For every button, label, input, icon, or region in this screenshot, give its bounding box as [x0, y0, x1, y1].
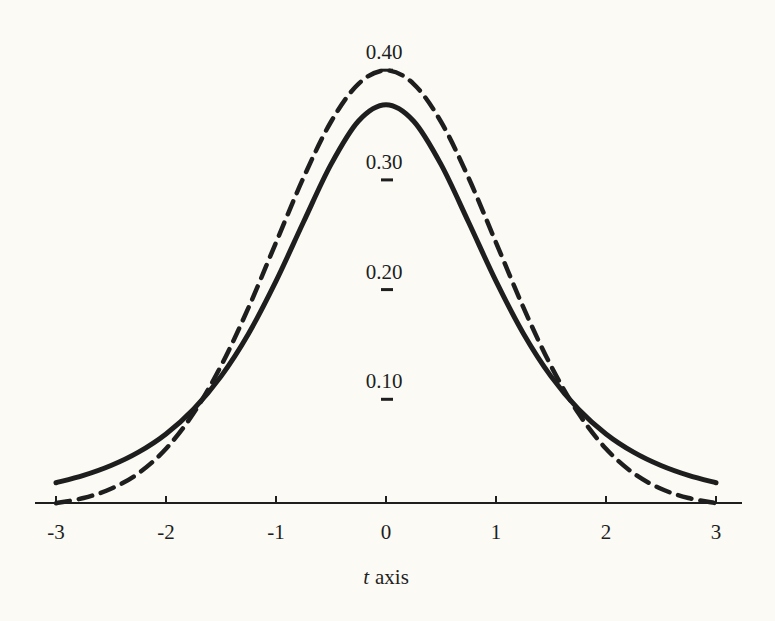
x-tick-label: 2: [601, 520, 612, 545]
x-axis-variable: t: [363, 565, 369, 589]
y-tick-label: 0.10: [366, 369, 403, 394]
y-tick-label: 0.20: [366, 260, 403, 285]
x-tick-label: 3: [711, 520, 722, 545]
x-tick-label: -3: [47, 520, 65, 545]
x-axis-label: taxis: [363, 565, 409, 590]
y-axis-ticks: [381, 70, 393, 399]
dashed-curve: [56, 70, 716, 503]
x-tick-label: -2: [157, 520, 175, 545]
x-axis-label-text: axis: [375, 565, 409, 589]
x-tick-label: 1: [491, 520, 502, 545]
y-tick-label: 0.30: [366, 150, 403, 175]
x-tick-label: -1: [267, 520, 285, 545]
x-tick-label: 0: [381, 520, 392, 545]
y-tick-label: 0.40: [366, 40, 403, 65]
